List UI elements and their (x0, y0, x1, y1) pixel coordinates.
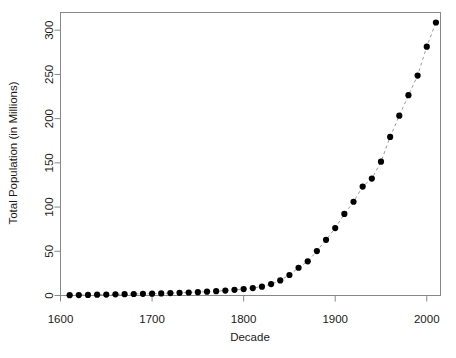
data-point (295, 265, 301, 271)
data-point (122, 291, 128, 297)
data-point (167, 290, 173, 296)
y-axis-title: Total Population (in Millions) (7, 81, 19, 224)
chart-background (0, 0, 456, 358)
data-point (94, 292, 100, 298)
data-point (268, 281, 274, 287)
data-point (67, 292, 73, 298)
data-point (112, 291, 118, 297)
data-point (85, 292, 91, 298)
data-point (424, 44, 430, 50)
data-point (140, 291, 146, 297)
y-tick-label: 50 (43, 245, 55, 258)
data-point (213, 288, 219, 294)
data-point (241, 286, 247, 292)
y-tick-label: 0 (43, 292, 55, 298)
data-point (195, 289, 201, 295)
data-point (231, 287, 237, 293)
data-point (323, 237, 329, 243)
data-point (76, 292, 82, 298)
x-tick-label: 1600 (48, 313, 74, 325)
x-tick-label: 1900 (322, 313, 348, 325)
data-point (433, 19, 439, 25)
data-point (378, 159, 384, 165)
data-point (360, 183, 366, 189)
data-point (250, 285, 256, 291)
data-point (286, 272, 292, 278)
data-point (158, 290, 164, 296)
data-point (369, 175, 375, 181)
data-point (415, 72, 421, 78)
data-point (314, 248, 320, 254)
data-point (103, 291, 109, 297)
data-point (405, 92, 411, 98)
y-tick-label: 300 (43, 21, 55, 40)
data-point (341, 211, 347, 217)
x-tick-label: 1700 (139, 313, 165, 325)
data-point (149, 291, 155, 297)
y-tick-label: 150 (43, 153, 55, 172)
data-point (305, 258, 311, 264)
x-tick-label: 2000 (414, 313, 440, 325)
data-point (131, 291, 137, 297)
population-scatter-chart: 050100150200250300 16001700180019002000 … (0, 0, 456, 358)
data-point (222, 287, 228, 293)
data-point (332, 225, 338, 231)
data-point (277, 277, 283, 283)
data-point (387, 134, 393, 140)
data-point (259, 284, 265, 290)
data-point (350, 199, 356, 205)
y-tick-label: 200 (43, 109, 55, 128)
x-tick-label: 1800 (231, 313, 257, 325)
data-point (176, 290, 182, 296)
y-tick-label: 100 (43, 197, 55, 216)
x-axis-title: Decade (230, 331, 270, 343)
data-point (204, 289, 210, 295)
data-point (396, 113, 402, 119)
y-tick-label: 250 (43, 65, 55, 84)
chart-root: 050100150200250300 16001700180019002000 … (0, 0, 456, 358)
data-point (186, 289, 192, 295)
